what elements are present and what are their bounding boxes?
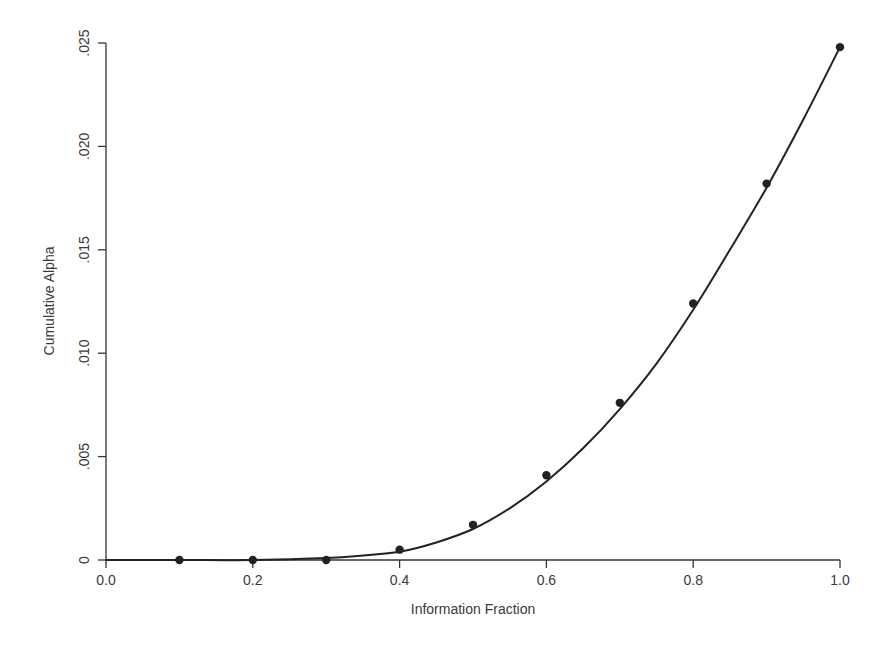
y-ticks: 0.005.010.015.020.025 [76,29,106,564]
y-axis-title: Cumulative Alpha [41,246,57,355]
data-point [762,179,770,187]
data-point [469,521,477,529]
y-tick-label: .010 [76,339,92,366]
data-point [616,399,624,407]
data-point [542,471,550,479]
data-point [322,556,330,564]
axes: 0.00.20.40.60.81.0 0.005.010.015.020.025 [76,29,850,588]
x-tick-label: 0.0 [96,572,116,588]
x-axis-title: Information Fraction [411,601,536,617]
y-tick-label: .025 [76,29,92,56]
y-tick-label: 0 [76,556,92,564]
data-point [175,556,183,564]
x-ticks: 0.00.20.40.60.81.0 [96,560,850,588]
x-tick-label: 1.0 [830,572,850,588]
spending-function-curve [106,47,840,560]
y-tick-label: .020 [76,133,92,160]
chart: 0.00.20.40.60.81.0 0.005.010.015.020.025… [0,0,894,648]
data-point [689,299,697,307]
x-tick-label: 0.8 [683,572,703,588]
y-tick-label: .015 [76,236,92,263]
data-point [395,545,403,553]
data-points [175,43,844,564]
x-tick-label: 0.6 [537,572,557,588]
y-tick-label: .005 [76,443,92,470]
data-point [836,43,844,51]
x-tick-label: 0.2 [243,572,263,588]
data-point [249,556,257,564]
x-tick-label: 0.4 [390,572,410,588]
